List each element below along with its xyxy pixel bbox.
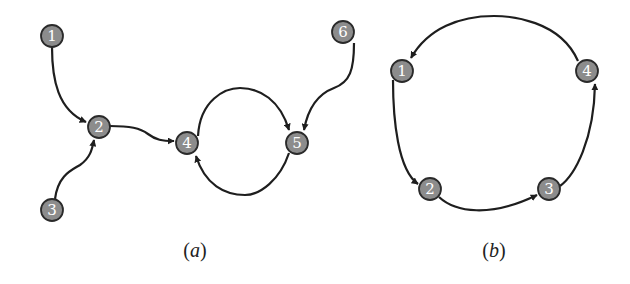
edge-a-5-to-4 (196, 153, 289, 195)
node-a-2: 2 (88, 116, 110, 138)
edge-a-3-to-2 (55, 140, 94, 199)
edge-b-2-to-3 (439, 195, 537, 210)
edge-b-1-to-2 (393, 80, 418, 184)
edge-b-3-to-4 (560, 84, 595, 186)
edge-b-4-to-1 (411, 16, 578, 61)
node-a-6: 6 (332, 21, 354, 43)
diagram-b: 1 2 3 4 (b) (391, 16, 598, 262)
node-b-2: 2 (419, 178, 441, 200)
node-a-4: 4 (176, 132, 198, 154)
edge-a-1-to-2 (52, 47, 86, 122)
edge-a-2-to-4 (110, 126, 174, 141)
node-a-5: 5 (286, 132, 308, 154)
edge-a-6-to-5 (304, 43, 354, 130)
node-a-3: 3 (41, 199, 63, 221)
node-label: 3 (544, 180, 554, 198)
directed-graph-figure: 1 2 3 4 5 6 (a) (0, 0, 630, 284)
edge-a-4-to-5 (198, 88, 289, 136)
node-label: 5 (292, 134, 302, 152)
caption-b: (b) (482, 239, 505, 262)
diagram-a: 1 2 3 4 5 6 (a) (41, 21, 354, 262)
node-label: 3 (47, 201, 57, 219)
node-label: 2 (94, 118, 104, 136)
caption-a: (a) (183, 239, 206, 262)
node-label: 1 (397, 62, 407, 80)
node-b-4: 4 (576, 60, 598, 82)
node-a-1: 1 (41, 25, 63, 47)
node-label: 2 (425, 180, 435, 198)
node-b-1: 1 (391, 60, 413, 82)
node-label: 1 (47, 27, 57, 45)
node-label: 6 (338, 23, 348, 41)
node-label: 4 (182, 134, 192, 152)
node-b-3: 3 (538, 178, 560, 200)
node-label: 4 (582, 62, 592, 80)
